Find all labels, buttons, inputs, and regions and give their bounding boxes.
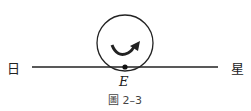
star-label: 星 (231, 58, 244, 77)
sun-label: 日 (7, 58, 20, 77)
orbit-circle (97, 15, 153, 71)
point-e-dot (122, 64, 127, 69)
rotation-arrow-icon (112, 41, 140, 54)
point-e-label: E (119, 74, 129, 89)
figure-caption: 圖 2–3 (108, 91, 142, 107)
